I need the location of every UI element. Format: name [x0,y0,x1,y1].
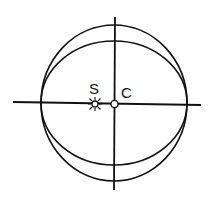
center-marker-icon [111,100,118,107]
sun-label: S [89,80,99,97]
sun-icon [88,97,102,111]
center-label: C [121,84,132,101]
ellipse-diagram: S C [0,0,212,200]
